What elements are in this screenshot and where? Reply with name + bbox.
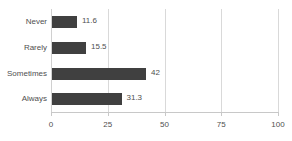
y-axis-category-labels: Never Rarely Sometimes Always (0, 9, 47, 112)
bar-row-always: 31.3 (51, 86, 278, 112)
plot-area: 11.6 15.5 42 31.3 (51, 9, 278, 112)
category-label-never: Never (26, 9, 47, 35)
category-label-sometimes: Sometimes (7, 61, 47, 87)
x-tick-75 (221, 112, 222, 116)
x-tick-label-0: 0 (49, 120, 53, 130)
x-tick-label-75: 75 (217, 120, 226, 130)
category-label-rarely: Rarely (24, 35, 47, 61)
x-tick-25 (108, 112, 109, 116)
bar-series: 11.6 15.5 42 31.3 (51, 9, 278, 112)
bar-never[interactable] (51, 16, 77, 28)
gridline-100 (278, 9, 279, 112)
bar-row-sometimes: 42 (51, 61, 278, 87)
y-axis-line (51, 9, 52, 112)
category-label-always: Always (22, 86, 47, 112)
x-tick-label-50: 50 (160, 120, 169, 130)
bar-value-rarely: 15.5 (91, 41, 107, 53)
x-tick-label-100: 100 (271, 120, 284, 130)
bar-value-sometimes: 42 (151, 67, 160, 79)
bar-rarely[interactable] (51, 42, 86, 54)
x-tick-0 (51, 112, 52, 116)
x-tick-label-25: 25 (103, 120, 112, 130)
bar-chart: 11.6 15.5 42 31.3 0 25 50 75 100 N (0, 0, 292, 141)
bar-sometimes[interactable] (51, 68, 146, 80)
x-tick-100 (278, 112, 279, 116)
bar-value-never: 11.6 (82, 15, 97, 27)
bar-value-always: 31.3 (127, 92, 143, 104)
bar-row-rarely: 15.5 (51, 35, 278, 61)
bar-always[interactable] (51, 93, 122, 105)
x-tick-50 (165, 112, 166, 116)
bar-row-never: 11.6 (51, 9, 278, 35)
